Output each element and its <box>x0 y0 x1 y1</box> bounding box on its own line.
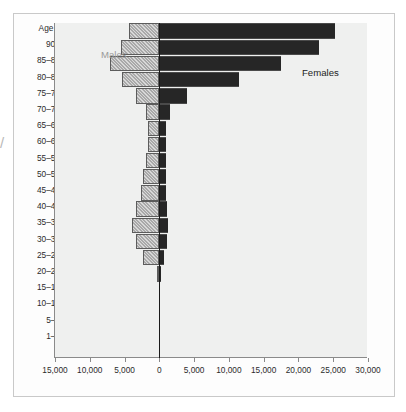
bar-male <box>132 218 159 233</box>
x-axis-tick-mark <box>159 358 160 362</box>
plot-area: 15,00010,0005,00005,00010,00015,00020,00… <box>54 23 367 358</box>
x-axis-tick-label: 20,000 <box>286 365 311 375</box>
pyramid-row <box>55 23 367 39</box>
x-axis-tick-label: 30,000 <box>355 365 380 375</box>
x-axis-tick-mark <box>264 358 265 362</box>
bar-female <box>159 201 167 216</box>
x-axis-tick-mark <box>90 358 91 362</box>
x-axis-tick-label: 10,000 <box>77 365 102 375</box>
x-axis-tick-mark <box>229 358 230 362</box>
x-axis-tick-mark <box>368 358 369 362</box>
pyramid-row <box>55 266 367 282</box>
bar-male <box>143 169 159 184</box>
pyramid-row <box>55 169 367 185</box>
x-axis-tick-label: 5,000 <box>114 365 135 375</box>
bar-female <box>159 137 165 152</box>
bar-male <box>136 201 159 216</box>
bar-male <box>148 137 160 152</box>
bar-male <box>122 72 159 87</box>
pyramid-row <box>55 104 367 120</box>
pyramid-row <box>55 298 367 314</box>
bar-male <box>146 104 159 119</box>
pyramid-row <box>55 217 367 233</box>
bar-female <box>159 218 168 233</box>
pyramid-row <box>55 120 367 136</box>
pyramid-row <box>55 331 367 347</box>
bar-female <box>159 234 167 249</box>
x-axis-tick-mark <box>333 358 334 362</box>
edge-artifact-mark: / <box>0 133 7 153</box>
pyramid-row <box>55 282 367 298</box>
bar-female <box>159 56 281 71</box>
x-axis-tick-mark <box>194 358 195 362</box>
bar-male <box>129 23 159 38</box>
bar-female <box>159 185 165 200</box>
x-axis-tick-label: 15,000 <box>42 365 67 375</box>
bar-male <box>143 250 160 265</box>
pyramid-row <box>55 201 367 217</box>
x-axis-tick-mark <box>298 358 299 362</box>
bar-female <box>159 23 335 38</box>
pyramid-row <box>55 153 367 169</box>
x-axis-tick-mark <box>125 358 126 362</box>
pyramid-row <box>55 88 367 104</box>
bar-female <box>159 169 165 184</box>
x-axis-tick-mark <box>55 358 56 362</box>
series-label-males: Males <box>101 49 127 60</box>
bar-male <box>148 121 160 136</box>
x-axis-tick-label: 15,000 <box>251 365 276 375</box>
chart-card: Age 90+85–8980–8475–7970–7465–6960–6455–… <box>13 13 395 397</box>
pyramid-row <box>55 136 367 152</box>
pyramid-row <box>55 233 367 249</box>
bar-male <box>136 234 160 249</box>
bar-male <box>146 153 159 168</box>
pyramid-row <box>55 250 367 266</box>
bar-female <box>159 40 319 55</box>
series-label-females: Females <box>302 67 339 78</box>
bar-female <box>159 88 187 103</box>
bar-female <box>159 153 165 168</box>
bar-female <box>159 121 166 136</box>
pyramid-row <box>55 185 367 201</box>
pyramid-row <box>55 314 367 330</box>
x-axis-tick-label: 0 <box>157 365 162 375</box>
population-pyramid-figure: / Age 90+85–8980–8475–7970–7465–6960–645… <box>0 0 406 412</box>
bar-female <box>159 104 170 119</box>
zero-axis-line <box>159 23 161 358</box>
x-axis-tick-label: 5,000 <box>184 365 205 375</box>
x-axis-tick-label: 25,000 <box>321 365 346 375</box>
bar-male <box>141 185 159 200</box>
x-axis-tick-label: 10,000 <box>216 365 241 375</box>
bar-male <box>136 88 160 103</box>
bar-female <box>159 72 239 87</box>
